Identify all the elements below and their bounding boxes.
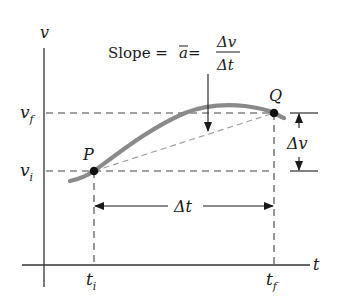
slope-formula-abar: a [179,44,188,62]
point-q-label: Q [269,86,282,105]
velocity-time-graph: v t vf vi ti tf P Q Slope = a = Δv Δt Δt… [0,0,337,308]
point-p-marker [90,167,99,176]
point-q-marker [270,109,279,118]
slope-numerator: Δv [216,33,237,51]
delta-v-label: Δv [286,134,308,153]
v-axis-label: v [40,23,49,42]
ti-label: ti [86,269,96,293]
t-axis-label: t [313,255,320,274]
delta-t-label: Δt [173,197,193,216]
secant-line [94,113,274,171]
vf-label: vf [20,102,36,126]
slope-denominator: Δt [216,56,235,74]
slope-formula-prefix: Slope = [108,44,168,62]
tf-label: tf [266,269,279,293]
velocity-curve [70,105,284,181]
vi-label: vi [20,160,33,184]
point-p-label: P [82,145,94,164]
slope-formula-equals: = [188,44,201,62]
